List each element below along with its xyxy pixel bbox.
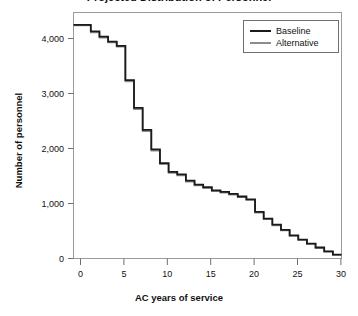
x-tick-label-25: 25 — [292, 269, 302, 279]
x-tick-label-30: 30 — [336, 269, 346, 279]
y-tick-label-1000: 1,000 — [41, 199, 64, 209]
x-tick-label-0: 0 — [78, 269, 83, 279]
legend-label-alternative: Alternative — [276, 38, 319, 48]
y-tick-label-2000: 2,000 — [41, 144, 64, 154]
x-tick-label-15: 15 — [206, 269, 216, 279]
plot-area: 0 1,000 2,000 3,000 4,000 0 5 10 15 20 2… — [0, 0, 358, 316]
y-tick-label-4000: 4,000 — [41, 34, 64, 44]
y-tick-label-0: 0 — [59, 254, 64, 264]
chart-figure: Projected Distribution of Personnel 0 1,… — [0, 0, 358, 316]
legend-label-baseline: Baseline — [276, 26, 311, 36]
x-axis-ticks — [81, 259, 341, 266]
y-axis-ticks — [68, 39, 74, 259]
x-tick-label-10: 10 — [162, 269, 172, 279]
y-tick-label-3000: 3,000 — [41, 89, 64, 99]
legend: Baseline Alternative — [244, 21, 339, 53]
x-axis-title: AC years of service — [0, 292, 358, 303]
x-tick-label-5: 5 — [121, 269, 126, 279]
x-tick-label-20: 20 — [249, 269, 259, 279]
y-axis-title: Number of personnel — [13, 71, 24, 211]
